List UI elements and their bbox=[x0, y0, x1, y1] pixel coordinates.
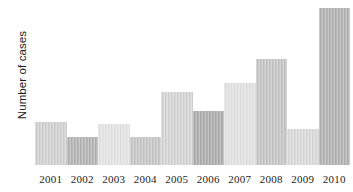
x-tick-label-2007: 2007 bbox=[224, 166, 256, 192]
x-tick-label-2003: 2003 bbox=[98, 166, 130, 192]
bar-2009 bbox=[287, 129, 319, 165]
x-tick-label-2002: 2002 bbox=[67, 166, 99, 192]
x-tick-label-2010: 2010 bbox=[319, 166, 351, 192]
bar-2010 bbox=[319, 8, 351, 165]
x-tick-label-2005: 2005 bbox=[161, 166, 193, 192]
x-tick-label-2006: 2006 bbox=[193, 166, 225, 192]
bar-2008 bbox=[256, 59, 288, 165]
x-tick-label-2001: 2001 bbox=[35, 166, 67, 192]
y-axis-label: Number of cases bbox=[14, 0, 30, 150]
bar-2003 bbox=[98, 124, 130, 165]
bar-chart: Number of cases 200120022003200420052006… bbox=[0, 0, 353, 192]
bar-2002 bbox=[67, 137, 99, 165]
bar-2006 bbox=[193, 111, 225, 165]
bar-2001 bbox=[35, 122, 67, 165]
x-tick-label-2004: 2004 bbox=[130, 166, 162, 192]
plot-area bbox=[35, 0, 350, 165]
x-axis-tick-labels: 2001200220032004200520062007200820092010 bbox=[35, 166, 350, 192]
x-tick-label-2009: 2009 bbox=[287, 166, 319, 192]
bar-2007 bbox=[224, 83, 256, 166]
bar-2004 bbox=[130, 137, 162, 165]
x-tick-label-2008: 2008 bbox=[256, 166, 288, 192]
bar-2005 bbox=[161, 92, 193, 165]
